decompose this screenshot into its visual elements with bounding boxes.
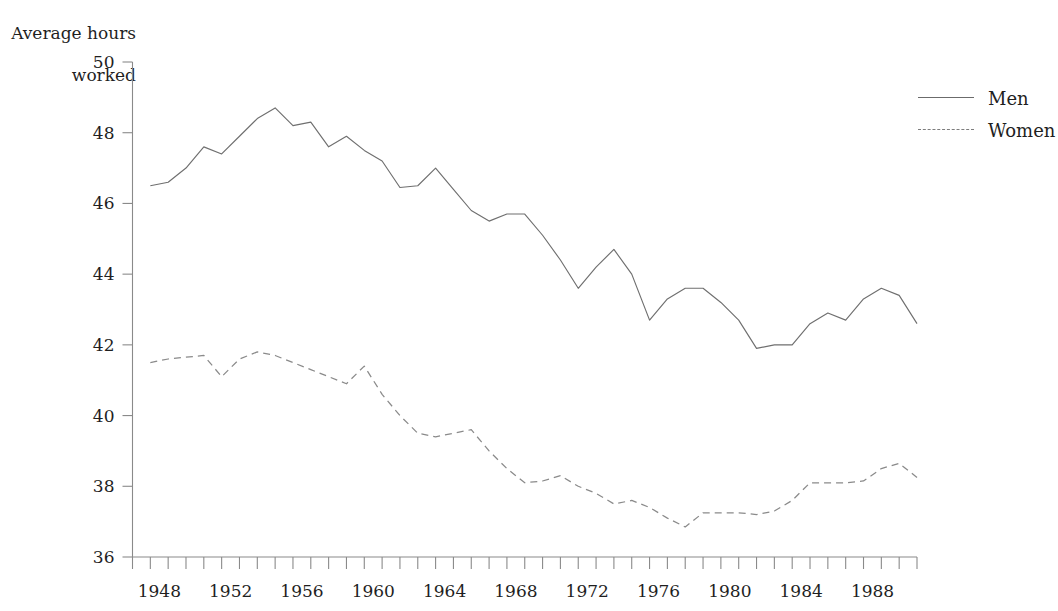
legend-label-men: Men (988, 88, 1029, 109)
legend-item-men: Men (918, 82, 1058, 114)
y-axis-tick-label: 50 (93, 52, 115, 72)
x-axis-tick-label: 1964 (423, 581, 466, 601)
y-axis-tick-group: 3638404244464850 (93, 52, 133, 567)
x-axis-tick-label: 1984 (780, 581, 823, 601)
y-axis-tick-label: 48 (93, 123, 115, 143)
chart-container: Average hours worked 3638404244464850 19… (0, 0, 1058, 611)
y-axis-tick-label: 46 (93, 193, 115, 213)
y-axis-tick-label: 36 (93, 547, 115, 567)
legend-swatch-men-icon (918, 97, 974, 99)
legend-item-women: Women (918, 114, 1058, 146)
y-axis-tick-label: 44 (93, 264, 115, 284)
x-axis-tick-group (133, 557, 918, 569)
y-axis-tick-label: 42 (93, 335, 115, 355)
x-axis-tick-label: 1952 (209, 581, 252, 601)
y-axis-tick-label: 38 (93, 476, 115, 496)
legend-swatch-women-icon (918, 129, 974, 131)
x-axis-tick-label: 1948 (138, 581, 181, 601)
x-axis-tick-label: 1976 (637, 581, 680, 601)
x-axis-tick-label: 1956 (280, 581, 323, 601)
series-line-men (150, 108, 917, 348)
legend-label-women: Women (988, 120, 1055, 141)
x-axis-tick-label: 1980 (708, 581, 751, 601)
x-axis-label-group: 1948195219561960196419681972197619801984… (138, 581, 894, 601)
line-chart-plot: 3638404244464850 19481952195619601964196… (0, 0, 1058, 611)
chart-legend: Men Women (918, 82, 1058, 146)
x-axis-tick-label: 1988 (851, 581, 894, 601)
x-axis-tick-label: 1960 (352, 581, 395, 601)
x-axis-tick-label: 1968 (494, 581, 537, 601)
series-line-women (150, 352, 917, 527)
x-axis-tick-label: 1972 (566, 581, 609, 601)
y-axis-tick-label: 40 (93, 406, 115, 426)
